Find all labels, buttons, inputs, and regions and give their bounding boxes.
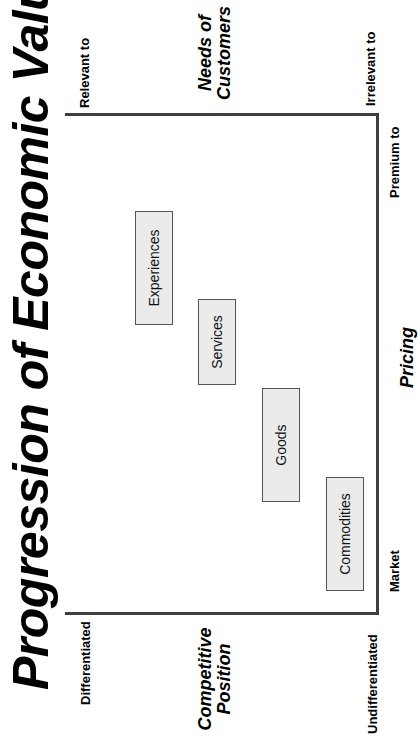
pricing-axis-title: Pricing [398, 328, 417, 388]
competitive-end-label: Undifferentiated [366, 634, 380, 734]
stage-label: Experiences [146, 229, 162, 306]
stage-label: Commodities [337, 493, 353, 575]
pricing-end-label: Premium to [388, 126, 402, 198]
page-title: Progression of Economic Value [6, 0, 56, 690]
competitive-start-label: Differentiated [79, 621, 93, 705]
competitive-axis-title-line1: Competitive [196, 623, 215, 735]
stage-label: Goods [273, 424, 289, 465]
competitive-axis-title: Competitive Position [196, 623, 234, 735]
frame-bottom-line [65, 612, 379, 615]
needs-end-label: Irrelevant to [364, 32, 378, 106]
stage-box-services: Services [198, 299, 236, 385]
pricing-start-label: Market [388, 550, 402, 592]
needs-axis-title-line2: Customers [215, 0, 234, 106]
stage-box-commodities: Commodities [326, 477, 364, 591]
stage-box-goods: Goods [262, 388, 300, 502]
frame-top-line [65, 113, 379, 116]
needs-axis-title-line1: Needs of [196, 0, 215, 106]
competitive-axis-title-line2: Position [215, 623, 234, 735]
frame-right-line [376, 113, 379, 615]
stage-box-experiences: Experiences [135, 211, 173, 325]
stage-label: Services [209, 315, 225, 369]
needs-axis-title: Needs of Customers [196, 0, 234, 106]
needs-start-label: Relevant to [78, 38, 92, 108]
